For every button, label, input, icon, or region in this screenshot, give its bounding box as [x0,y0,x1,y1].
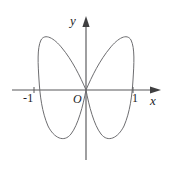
origin-label: O [73,93,82,105]
tick-label-pos-one: 1 [132,92,138,104]
figure-container: y x O -1 1 [0,0,174,169]
curve-right-lobe [86,37,134,139]
coordinate-plane-graphic [0,0,174,169]
x-axis-label: x [150,94,156,107]
tick-label-neg-one: -1 [23,92,33,104]
y-axis-label: y [70,14,76,27]
arrow-up-icon [82,16,89,27]
curve-left-lobe [38,37,86,139]
